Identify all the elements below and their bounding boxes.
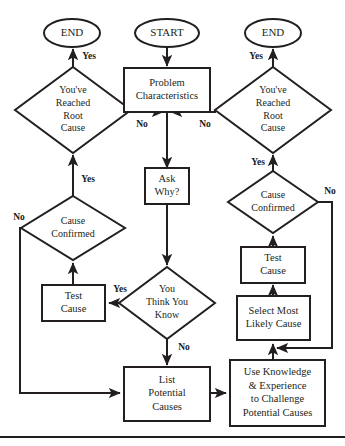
terminator-label-start: START	[150, 26, 184, 38]
process-label-list-potential-causes-line: Causes	[152, 401, 182, 412]
process-ask-why: AskWhy?	[145, 168, 189, 204]
process-label-problem-characteristics-line: Characteristics	[136, 90, 198, 101]
decision-label-cause-confirmed-left-line: Cause	[61, 215, 86, 226]
edge-label-yes-right-root: Yes	[249, 51, 263, 61]
process-label-test-cause-right-line: Cause	[260, 265, 286, 276]
terminator-end-left: END	[44, 19, 100, 47]
edge-label-no-left-root: No	[136, 119, 148, 129]
edge-label-no-right-confirmed: No	[324, 186, 336, 196]
edge-label-yes-right-confirmed: Yes	[251, 157, 265, 167]
flowchart-canvas: You'veReachedRootCauseYou'veReachedRootC…	[0, 0, 345, 446]
decision-you-think-you-know: YouThink YouKnow	[119, 267, 215, 339]
process-label-problem-characteristics-line: Problem	[149, 77, 185, 88]
process-label-select-most-likely-line: Likely Cause	[246, 318, 302, 329]
edge-label-no-right-root: No	[199, 119, 211, 129]
process-test-cause-right: TestCause	[241, 247, 305, 283]
decision-label-root-cause-left-line: Root	[63, 110, 83, 121]
process-label-list-potential-causes-line: List	[159, 374, 175, 385]
decision-label-root-cause-right-line: Reached	[256, 97, 290, 108]
decision-cause-confirmed-left: CauseConfirmed	[21, 196, 125, 260]
decision-label-cause-confirmed-right-line: Cause	[261, 189, 286, 200]
terminator-start: START	[135, 19, 199, 47]
decision-label-root-cause-left-line: You've	[59, 84, 87, 95]
process-label-use-knowledge-line: to Challenge	[251, 393, 305, 404]
edge-label-yes-left-confirmed: Yes	[81, 174, 95, 184]
process-list-potential-causes: ListPotentialCauses	[124, 367, 210, 421]
decision-label-root-cause-left-line: Cause	[61, 122, 86, 133]
edge-label-no-left-confirmed: No	[13, 212, 25, 222]
decision-label-you-think-you-know-line: You	[159, 283, 175, 294]
decision-label-cause-confirmed-left-line: Confirmed	[51, 228, 94, 239]
process-label-test-cause-left-line: Cause	[61, 303, 87, 314]
decision-label-root-cause-right-line: Cause	[261, 122, 286, 133]
terminator-label-end-left: END	[61, 26, 84, 38]
decision-label-root-cause-right-line: You've	[259, 84, 287, 95]
decision-label-root-cause-left-line: Reached	[56, 97, 90, 108]
process-label-use-knowledge-line: & Experience	[248, 380, 306, 391]
process-problem-characteristics: ProblemCharacteristics	[124, 68, 210, 112]
process-label-use-knowledge-line: Potential Causes	[243, 407, 313, 418]
decision-root-cause-left: You'veReachedRootCause	[15, 67, 131, 153]
process-label-test-cause-left-line: Test	[65, 290, 82, 301]
process-test-cause-left: TestCause	[42, 285, 105, 321]
flowchart-svg: You'veReachedRootCauseYou'veReachedRootC…	[0, 0, 345, 446]
decision-root-cause-right: You'veReachedRootCause	[215, 67, 331, 153]
process-label-test-cause-right-line: Test	[264, 252, 281, 263]
decision-label-cause-confirmed-right-line: Confirmed	[251, 202, 294, 213]
edge-label-no-think-you-know: No	[178, 342, 190, 352]
decision-cause-confirmed-right: CauseConfirmed	[228, 171, 318, 233]
process-label-list-potential-causes-line: Potential	[148, 387, 185, 398]
terminator-end-right: END	[245, 19, 301, 47]
process-label-select-most-likely-line: Select Most	[249, 305, 299, 316]
decision-label-you-think-you-know-line: Think You	[146, 296, 188, 307]
terminator-label-end-right: END	[262, 26, 285, 38]
terminators-layer: ENDSTARTEND	[44, 19, 301, 47]
decision-label-root-cause-right-line: Root	[263, 110, 283, 121]
process-label-ask-why-line: Ask	[159, 173, 177, 184]
decision-label-you-think-you-know-line: Know	[155, 309, 180, 320]
process-use-knowledge: Use Knowledge& Experienceto ChallengePot…	[230, 360, 325, 426]
process-label-ask-why-line: Why?	[154, 186, 179, 197]
process-select-most-likely: Select MostLikely Cause	[237, 296, 310, 340]
edge-label-yes-left-root: Yes	[82, 51, 96, 61]
process-label-use-knowledge-line: Use Knowledge	[244, 366, 312, 377]
edge-label-yes-think-you-know: Yes	[113, 284, 127, 294]
